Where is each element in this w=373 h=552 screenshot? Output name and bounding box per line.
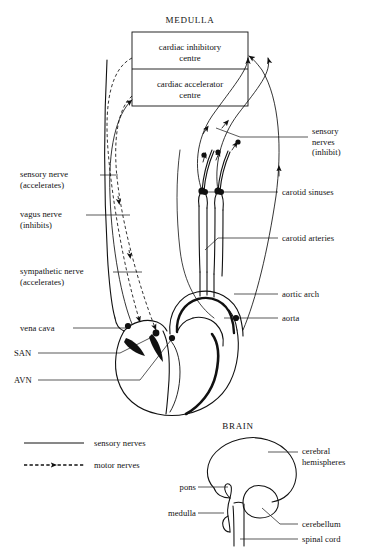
label-cerebral-hemispheres: cerebral hemispheres (302, 446, 346, 467)
legend-label-sensory-nerves: sensory nerves (94, 438, 146, 449)
leader-cerebellum-a (262, 508, 280, 524)
label-vena-cava: vena cava (20, 323, 55, 334)
label-carotid-sinuses: carotid sinuses (282, 187, 334, 198)
legend-label-motor-nerves: motor nerves (94, 460, 140, 471)
diagram-page: MEDULLA cardiac inhibitory centre cardia… (0, 0, 373, 552)
label-sensory-nerve-accelerates: sensory nerve (accelerates) (20, 169, 68, 190)
label-san: SAN (14, 348, 31, 359)
label-aorta: aorta (282, 313, 299, 324)
medulla-title: MEDULLA (132, 15, 248, 25)
label-sensory-nerves-inhibit: sensory nerves (inhibit) (312, 126, 341, 158)
cardiac-inhibitory-centre-label: cardiac inhibitory centre (134, 42, 246, 65)
label-sympathetic-nerve-accelerates: sympathetic nerve (accelerates) (20, 266, 84, 287)
brain-inset (207, 438, 296, 546)
legend (24, 443, 84, 465)
label-pons: pons (158, 482, 196, 493)
brain-leader-lines (198, 452, 298, 539)
label-avn: AVN (14, 375, 32, 386)
label-aortic-arch: aortic arch (282, 289, 319, 300)
label-cerebellum: cerebellum (302, 519, 341, 530)
brain-title: BRAIN (206, 421, 270, 431)
label-medulla: medulla (142, 508, 196, 519)
leader-lines (38, 128, 308, 380)
label-spinal-cord: spinal cord (302, 534, 341, 545)
cardiac-accelerator-centre-label: cardiac accelerator centre (134, 79, 246, 102)
label-carotid-arteries: carotid arteries (282, 233, 334, 244)
label-vagus-nerve-inhibits: vagus nerve (inhibits) (20, 209, 62, 230)
